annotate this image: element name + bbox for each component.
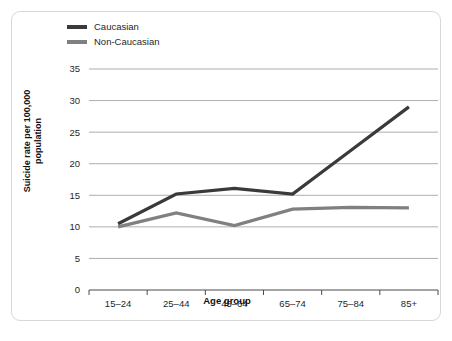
y-axis-tick-label: 0 [75, 284, 80, 295]
plot-area: 05101520253035 15–2425–4445–6465–7475–84… [12, 12, 442, 322]
figure-card: Caucasian Non-Caucasian Suicide rate per… [11, 11, 441, 321]
y-axis-tick-label: 20 [69, 158, 80, 169]
y-axis-tick-labels: 05101520253035 [69, 63, 80, 295]
figure-caption [20, 331, 440, 341]
series-line-non-caucasian [118, 207, 409, 227]
data-series-group [118, 107, 409, 227]
y-axis-tick-label: 30 [69, 95, 80, 106]
x-axis-title: Age group [12, 295, 442, 306]
y-axis-tick-label: 35 [69, 63, 80, 74]
y-axis-tick-label: 25 [69, 127, 80, 138]
chart-svg: 05101520253035 15–2425–4445–6465–7475–84… [12, 12, 442, 322]
y-axis-tick-label: 5 [75, 253, 80, 264]
gridlines [89, 69, 438, 258]
y-axis-tick-label: 15 [69, 190, 80, 201]
y-axis-tick-label: 10 [69, 221, 80, 232]
